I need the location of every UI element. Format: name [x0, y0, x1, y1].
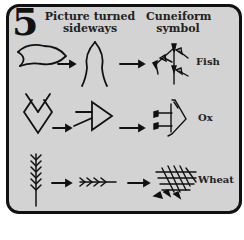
fish-pictograph-icon: [18, 45, 66, 66]
arrow-icon: [128, 180, 149, 186]
arrow-icon: [53, 125, 71, 131]
fish-rotated-icon: [82, 42, 107, 86]
fish-cuneiform-icon: [153, 44, 188, 84]
arrow-icon: [120, 125, 144, 131]
arrow-icon: [52, 180, 71, 186]
label-fish: Fish: [196, 56, 220, 67]
label-wheat: Wheat: [198, 174, 234, 185]
arrow-icon: [58, 61, 75, 67]
wheat-rotated-icon: [80, 178, 116, 186]
ox-pictograph-icon: [24, 94, 52, 133]
ox-rotated-icon: [74, 102, 112, 130]
arrow-icon: [120, 61, 144, 67]
wheat-pictograph-icon: [31, 154, 41, 206]
ox-cuneiform-icon: [154, 100, 186, 136]
wheat-cuneiform-icon: [154, 166, 196, 198]
label-ox: Ox: [198, 112, 213, 123]
